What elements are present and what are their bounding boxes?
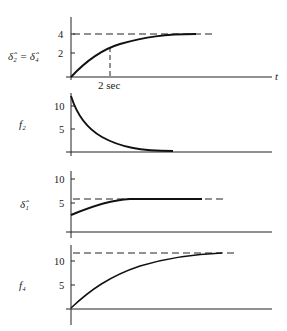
panel3-tick-label-5: 5 xyxy=(59,198,64,209)
panel-delta1: δ̂₁ 10 5 xyxy=(20,171,272,238)
panel4-curve xyxy=(71,253,222,308)
panel1-tick-label-2: 2 xyxy=(58,48,63,59)
panel2-tick-label-5: 5 xyxy=(59,124,64,135)
panel-f4: f₄ 10 5 xyxy=(19,245,272,325)
response-plots-figure: δ̂₂ = δ̂₄ t 4 2 2 sec f₂ 10 5 δ̂₁ 10 5 xyxy=(0,0,287,331)
panel4-tick-label-10: 10 xyxy=(54,256,65,267)
panel1-annotation-2sec: 2 sec xyxy=(98,79,120,91)
panel2-ylabel: f₂ xyxy=(19,118,26,130)
panel-f2: f₂ 10 5 xyxy=(19,93,272,156)
panel1-ylabel: δ̂₂ = δ̂₄ xyxy=(8,50,40,62)
panel1-tick-label-4: 4 xyxy=(58,29,64,40)
panel2-tick-label-10: 10 xyxy=(54,101,65,112)
panel3-ylabel: δ̂₁ xyxy=(20,198,30,210)
panel2-curve xyxy=(71,96,173,151)
panel1-curve xyxy=(71,34,196,77)
panel-delta2-delta4: δ̂₂ = δ̂₄ t 4 2 2 sec xyxy=(8,17,279,91)
panel4-ylabel: f₄ xyxy=(19,279,26,291)
panel3-tick-label-10: 10 xyxy=(54,174,65,185)
panel1-xlabel: t xyxy=(275,70,279,82)
panel4-tick-label-5: 5 xyxy=(59,280,64,291)
panel3-curve xyxy=(71,199,202,215)
